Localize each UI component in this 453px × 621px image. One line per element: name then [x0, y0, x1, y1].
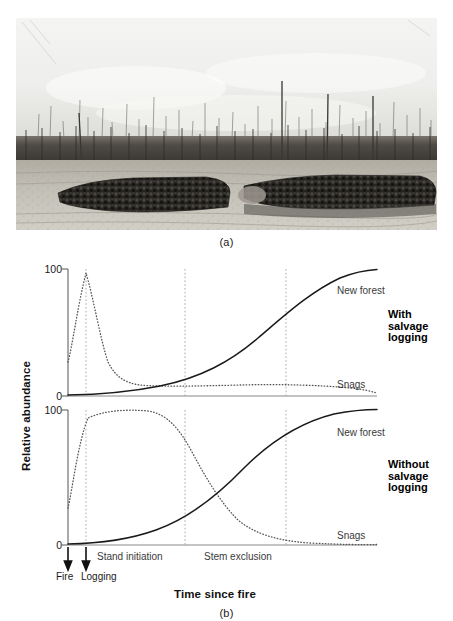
y-tick-bottom-100: 100	[32, 404, 62, 416]
bottom-chart-gridlines	[86, 410, 286, 545]
series-label-new-forest-top: New forest	[337, 285, 385, 296]
y-tick-top-0: 0	[32, 390, 62, 402]
event-label-logging: Logging	[81, 571, 117, 582]
top-chart-snags-curve	[68, 273, 377, 393]
bottom-chart-snags-curve	[68, 410, 377, 544]
bottom-chart-axes	[62, 410, 377, 545]
logging-arrow	[82, 547, 89, 570]
y-tick-bottom-0: 0	[32, 539, 62, 551]
panel-title-with-line3: logging	[388, 332, 428, 344]
x-axis-title: Time since fire	[60, 588, 370, 600]
top-chart-new-forest-curve	[68, 270, 377, 396]
panel-title-without-line3: logging	[388, 482, 429, 494]
event-label-fire: Fire	[56, 571, 73, 582]
fire-arrow	[64, 547, 71, 570]
panel-b-caption: (b)	[0, 607, 453, 619]
panel-title-without-line1: Without	[388, 459, 429, 471]
panel-title-with-line1: With	[388, 309, 428, 321]
panel-a-photograph	[16, 18, 437, 230]
stage-label-stem-exclusion: Stem exclusion	[204, 551, 272, 562]
top-chart-axes	[62, 269, 377, 396]
y-tick-top-100: 100	[32, 263, 62, 275]
panel-title-without-salvage: Without salvage logging	[388, 459, 429, 494]
figure-root: (a)	[0, 0, 453, 621]
panel-title-with-salvage: With salvage logging	[388, 309, 428, 344]
stage-label-stand-initiation: Stand initiation	[97, 551, 163, 562]
y-axis-title: Relative abundance	[20, 341, 32, 491]
series-label-new-forest-bottom: New forest	[337, 427, 385, 438]
succession-curves-svg	[0, 252, 453, 621]
panel-b-charts: Relative abundance 100 0 100 0 New fores…	[0, 252, 453, 621]
series-label-snags-top: Snags	[337, 379, 365, 390]
series-label-snags-bottom: Snags	[337, 530, 365, 541]
bottom-chart-new-forest-curve	[68, 410, 377, 545]
panel-a-caption: (a)	[0, 236, 453, 248]
salvage-logging-photo-graphic	[16, 18, 437, 230]
top-chart-gridlines	[86, 269, 286, 396]
